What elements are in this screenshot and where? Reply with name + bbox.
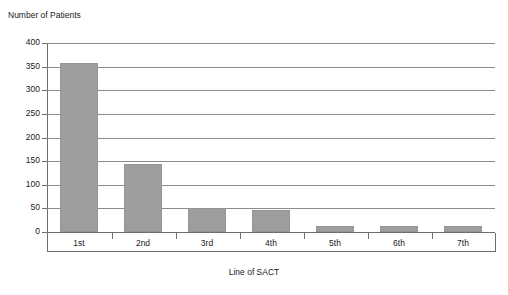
- bar-5th: [316, 226, 354, 232]
- category-label-1st: 1st: [47, 238, 111, 248]
- bar-6th: [380, 226, 418, 232]
- y-axis-title: Number of Patients: [8, 10, 81, 20]
- bar-1st: [60, 63, 98, 232]
- y-tick-label: 350: [4, 62, 40, 71]
- category-label-5th: 5th: [303, 238, 367, 248]
- category-label-4th: 4th: [239, 238, 303, 248]
- bar-7th: [444, 226, 482, 232]
- category-label-3rd: 3rd: [175, 238, 239, 248]
- y-tick-label: 200: [4, 133, 40, 142]
- y-tick-label: 400: [4, 38, 40, 47]
- category-label-6th: 6th: [367, 238, 431, 248]
- bar-4th: [252, 210, 290, 232]
- bar-3rd: [188, 208, 226, 232]
- bars-layer: [47, 43, 495, 232]
- category-label-2nd: 2nd: [111, 238, 175, 248]
- y-tick-label: 100: [4, 180, 40, 189]
- y-tick-label: 300: [4, 85, 40, 94]
- bar-2nd: [124, 164, 162, 233]
- y-tick-label: 250: [4, 109, 40, 118]
- y-tick-label: 50: [4, 203, 40, 212]
- category-label-7th: 7th: [431, 238, 495, 248]
- bar-chart: Number of Patients 050100150200250300350…: [0, 0, 508, 295]
- y-tick-label: 0: [4, 227, 40, 236]
- y-tick-label: 150: [4, 156, 40, 165]
- x-axis-title: Line of SACT: [0, 267, 508, 277]
